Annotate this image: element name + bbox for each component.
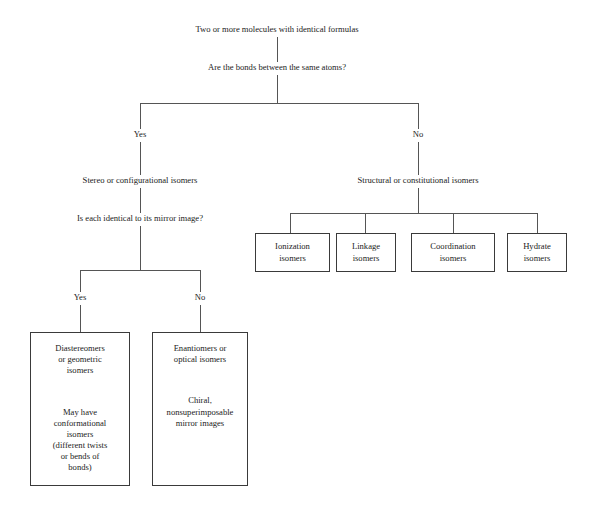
connector-no2-lower bbox=[200, 305, 201, 332]
diastereomers-box: Diastereomers or geometric isomers May h… bbox=[30, 332, 130, 486]
connector-to-ionization-box bbox=[290, 213, 291, 233]
diastereomers-box-note: May have conformational isomers (differe… bbox=[36, 407, 124, 474]
connector-yes2-upper bbox=[80, 270, 81, 292]
enantiomers-box-note: Chiral, nonsuperimposable mirror images bbox=[158, 395, 242, 429]
connector-no1-upper bbox=[418, 103, 419, 129]
question-2-label: Is each identical to its mirror image? bbox=[77, 213, 203, 224]
connector-question1-split-bar bbox=[140, 103, 419, 104]
connector-structural-down bbox=[418, 188, 419, 213]
connector-to-coordination-box bbox=[453, 213, 454, 233]
branch-label-no-2: No bbox=[193, 292, 208, 302]
stereo-isomers-label: Stereo or configurational isomers bbox=[83, 175, 198, 186]
connector-yes2-lower bbox=[80, 305, 81, 332]
connector-root-to-question1 bbox=[277, 37, 278, 62]
enantiomers-box: Enantiomers or optical isomers Chiral, n… bbox=[152, 332, 248, 486]
ionization-isomers-box: Ionization isomers bbox=[255, 233, 330, 272]
branch-label-no-1: No bbox=[411, 129, 426, 139]
coordination-isomers-box: Coordination isomers bbox=[411, 233, 495, 272]
connector-yes1-lower bbox=[140, 142, 141, 175]
connector-to-hydrate-box bbox=[537, 213, 538, 233]
structural-isomers-label: Structural or constitutional isomers bbox=[357, 175, 478, 186]
enantiomers-box-title: Enantiomers or optical isomers bbox=[158, 343, 242, 365]
question-1-label: Are the bonds between the same atoms? bbox=[208, 62, 346, 73]
connector-structural-split-bar bbox=[290, 213, 538, 214]
connector-question2-down bbox=[140, 226, 141, 270]
connector-question2-split-bar bbox=[80, 270, 201, 271]
connector-question1-down bbox=[277, 75, 278, 103]
diastereomers-box-title: Diastereomers or geometric isomers bbox=[36, 343, 124, 377]
connector-no2-upper bbox=[200, 270, 201, 292]
root-node-label: Two or more molecules with identical for… bbox=[195, 24, 358, 35]
hydrate-isomers-box: Hydrate isomers bbox=[507, 233, 567, 272]
connector-to-linkage-box bbox=[365, 213, 366, 233]
connector-stereo-to-question2 bbox=[140, 188, 141, 213]
branch-label-yes-1: Yes bbox=[132, 129, 149, 139]
connector-no1-lower bbox=[418, 142, 419, 175]
branch-label-yes-2: Yes bbox=[72, 292, 89, 302]
flowchart-canvas: Two or more molecules with identical for… bbox=[0, 0, 591, 520]
connector-yes1-upper bbox=[140, 103, 141, 129]
linkage-isomers-box: Linkage isomers bbox=[336, 233, 396, 272]
